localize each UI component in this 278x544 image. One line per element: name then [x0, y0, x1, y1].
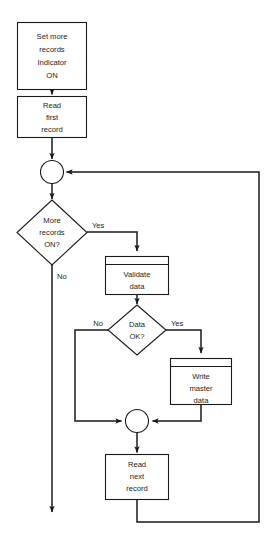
edge-data-ok-no-to-junction-bottom: [75, 330, 122, 421]
edge-data-ok-yes-to-write-master: [166, 330, 201, 353]
junction-top-circle: [41, 161, 64, 184]
flowchart-svg: Set more records Indicator ON Read first…: [0, 0, 278, 544]
write-master-line-3: data: [194, 396, 210, 405]
set-indicator-line-4: ON: [46, 71, 57, 80]
node-write-master-data[interactable]: Write master data: [171, 359, 232, 406]
read-first-line-3: record: [41, 125, 63, 134]
write-master-line-1: Write: [192, 372, 210, 381]
validate-data-line-2: data: [130, 282, 146, 291]
read-first-line-2: first: [46, 113, 59, 122]
more-records-line-3: ON?: [44, 240, 60, 249]
more-records-line-2: records: [39, 228, 65, 237]
validate-data-line-1: Validate: [124, 270, 151, 279]
node-decision-data-ok[interactable]: Data OK?: [108, 305, 166, 355]
read-next-line-1: Read: [128, 460, 146, 469]
edge-label-data-ok-yes: Yes: [171, 319, 184, 328]
node-junction-bottom[interactable]: [126, 410, 149, 433]
set-indicator-line-1: Set more: [37, 32, 68, 41]
node-validate-data[interactable]: Validate data: [106, 257, 169, 295]
write-master-line-2: master: [189, 384, 213, 393]
data-ok-line-2: OK?: [129, 332, 144, 341]
set-indicator-line-2: records: [39, 45, 65, 54]
node-decision-more-records-on[interactable]: More records ON?: [17, 200, 87, 265]
flowchart-canvas: Set more records Indicator ON Read first…: [0, 0, 278, 544]
node-read-first-record[interactable]: Read first record: [18, 97, 87, 138]
read-first-line-1: Read: [43, 101, 61, 110]
read-next-line-2: next: [130, 472, 145, 481]
data-ok-line-1: Data: [129, 320, 146, 329]
read-next-line-3: record: [126, 484, 148, 493]
edge-more-records-yes-to-validate: [87, 232, 137, 251]
more-records-line-1: More: [43, 216, 60, 225]
node-junction-top[interactable]: [41, 161, 64, 184]
set-indicator-line-3: Indicator: [37, 58, 67, 67]
node-read-next-record[interactable]: Read next record: [106, 455, 169, 500]
edge-label-data-ok-no: No: [93, 319, 103, 328]
edge-label-more-records-yes: Yes: [92, 221, 105, 230]
junction-bottom-circle: [126, 410, 149, 433]
node-set-more-records-indicator-on[interactable]: Set more records Indicator ON: [18, 23, 87, 90]
edge-write-master-to-junction-bottom: [153, 405, 202, 421]
data-ok-diamond: [108, 305, 166, 355]
edge-label-more-records-no: No: [57, 272, 67, 281]
